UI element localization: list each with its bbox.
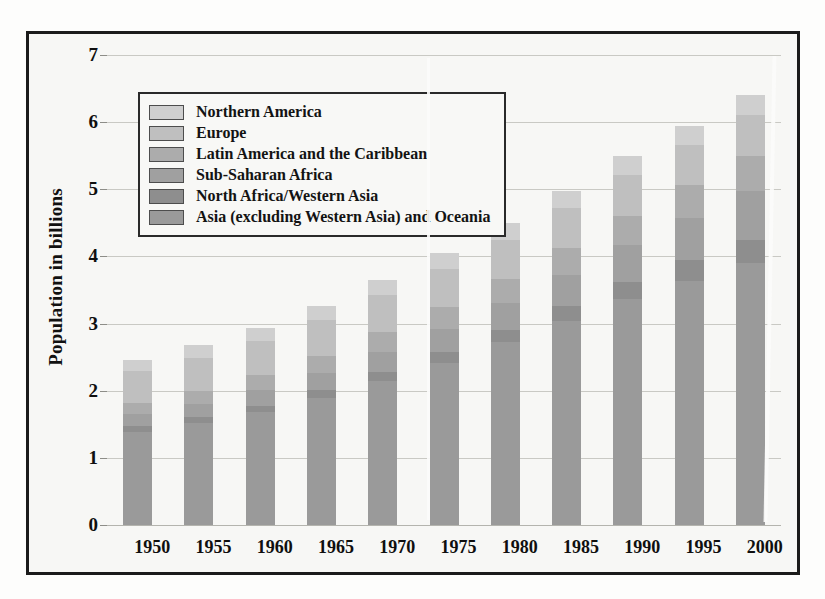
bar-segment	[368, 332, 397, 351]
y-tick-mark	[100, 189, 107, 190]
bar-1955	[184, 345, 213, 525]
bar-segment	[613, 216, 642, 246]
bar-segment	[307, 390, 336, 398]
bar-segment	[552, 275, 581, 307]
bar-segment	[123, 360, 152, 371]
bar-1950	[123, 360, 152, 525]
bar-segment	[184, 358, 213, 391]
plot-wrapper: Population in billions 01234567 19501955…	[29, 34, 803, 578]
bar-segment	[491, 279, 520, 303]
bar-1995	[675, 126, 704, 525]
bar-segment	[430, 253, 459, 269]
legend-item-label: Northern America	[196, 103, 322, 121]
bar-1965	[307, 306, 336, 525]
y-tick-label: 2	[89, 380, 99, 402]
y-tick-label: 7	[89, 44, 99, 66]
bar-segment	[307, 306, 336, 320]
y-tick-label: 3	[89, 313, 99, 335]
bar-segment	[491, 342, 520, 525]
bar-segment	[430, 307, 459, 328]
bar-segment	[368, 280, 397, 295]
bar-segment	[430, 329, 459, 352]
y-tick-mark	[100, 324, 107, 325]
x-tick-label: 2000	[730, 537, 800, 558]
y-tick-mark	[100, 55, 107, 56]
bar-segment	[675, 126, 704, 145]
bar-segment	[246, 406, 275, 413]
figure-frame: Population in billions 01234567 19501955…	[26, 31, 800, 575]
bar-segment	[246, 375, 275, 390]
bar-segment	[491, 240, 520, 279]
y-tick-mark	[100, 525, 107, 526]
y-tick-mark	[100, 391, 107, 392]
bar-segment	[736, 240, 765, 263]
y-tick-label: 1	[89, 447, 99, 469]
bar-segment	[307, 356, 336, 373]
bar-segment	[675, 218, 704, 261]
bar-segment	[675, 145, 704, 185]
bar-segment	[552, 306, 581, 321]
y-tick-mark	[100, 458, 107, 459]
bar-segment	[736, 115, 765, 155]
y-tick-label: 5	[89, 178, 99, 200]
bar-segment	[123, 414, 152, 426]
bar-1960	[246, 328, 275, 525]
x-tick-label: 1970	[362, 537, 432, 558]
y-tick-mark	[100, 256, 107, 257]
x-tick-label: 1975	[424, 537, 494, 558]
bar-segment	[307, 373, 336, 390]
bar-segment	[552, 248, 581, 275]
bar-2000	[736, 95, 765, 525]
bar-segment	[675, 185, 704, 217]
bar-segment	[246, 341, 275, 375]
bar-segment	[246, 412, 275, 525]
chart-page: Population in billions 01234567 19501955…	[0, 0, 825, 599]
bar-segment	[184, 404, 213, 417]
x-tick-label: 1950	[117, 537, 187, 558]
x-tick-label: 1985	[546, 537, 616, 558]
bar-segment	[246, 328, 275, 341]
legend-swatch-icon	[149, 126, 184, 141]
legend-item-label: Europe	[196, 124, 246, 142]
bar-segment	[430, 269, 459, 307]
bar-segment	[491, 330, 520, 343]
y-axis-title: Population in billions	[45, 17, 67, 537]
legend-swatch-icon	[149, 189, 184, 204]
gridline	[107, 525, 781, 526]
bar-segment	[430, 352, 459, 363]
bar-1970	[368, 280, 397, 525]
y-tick-label: 6	[89, 111, 99, 133]
bar-segment	[675, 281, 704, 525]
bar-segment	[675, 260, 704, 280]
bar-segment	[368, 372, 397, 381]
bar-segment	[184, 423, 213, 525]
bar-segment	[613, 175, 642, 215]
x-tick-label: 1995	[669, 537, 739, 558]
y-tick-mark	[100, 122, 107, 123]
bar-segment	[307, 398, 336, 525]
bar-1980	[491, 223, 520, 525]
bar-segment	[430, 363, 459, 525]
legend-swatch-icon	[149, 147, 184, 162]
bar-segment	[184, 345, 213, 358]
bar-segment	[613, 245, 642, 282]
legend-swatch-icon	[149, 105, 184, 120]
y-tick-label: 4	[89, 245, 99, 267]
legend-item: Europe	[149, 123, 490, 143]
bar-segment	[368, 295, 397, 332]
legend-item: Asia (excluding Western Asia) and Oceani…	[149, 207, 490, 227]
legend-item: North Africa/Western Asia	[149, 186, 490, 206]
bar-segment	[736, 191, 765, 241]
legend-swatch-icon	[149, 168, 184, 183]
x-tick-label: 1980	[485, 537, 555, 558]
legend-item: Sub-Saharan Africa	[149, 165, 490, 185]
legend-item: Northern America	[149, 102, 490, 122]
bar-segment	[123, 403, 152, 414]
bar-1990	[613, 156, 642, 525]
bar-segment	[736, 263, 765, 525]
legend-swatch-icon	[149, 210, 184, 225]
x-tick-label: 1965	[301, 537, 371, 558]
bar-segment	[552, 321, 581, 525]
bar-1985	[552, 191, 581, 525]
bar-segment	[307, 320, 336, 356]
